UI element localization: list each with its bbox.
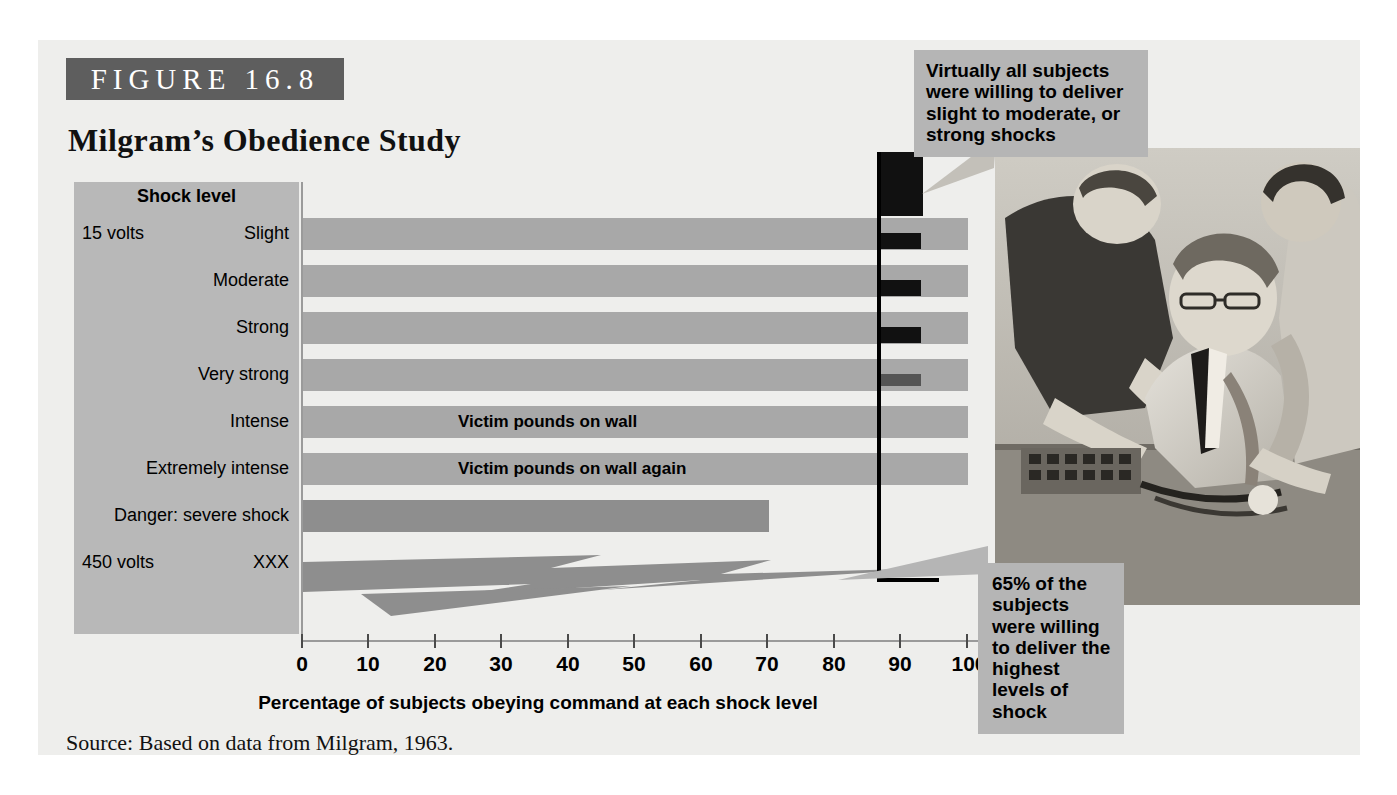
- category-label: Intense: [230, 405, 289, 437]
- bracket-segment: [881, 374, 921, 386]
- label-row-xxx: 450 volts XXX: [74, 546, 299, 578]
- x-tick-label: 0: [296, 652, 308, 676]
- figure-panel: FIGURE 16.8 Milgram’s Obedience Study Sh…: [38, 40, 1360, 755]
- label-row-very-strong: Very strong: [74, 358, 299, 390]
- figure-title: Milgram’s Obedience Study: [68, 122, 461, 159]
- figure-number-badge: FIGURE 16.8: [66, 58, 344, 100]
- figure-number-text: FIGURE 16.8: [66, 58, 344, 100]
- bracket-segment: [881, 233, 921, 249]
- category-label: Very strong: [198, 358, 289, 390]
- x-tick-label: 80: [822, 652, 845, 676]
- callout-top: Virtually all subjects were willing to d…: [914, 50, 1148, 157]
- callout-pointer-bottom: [838, 540, 988, 590]
- volt-label-low: 15 volts: [82, 217, 144, 249]
- x-tick-20: [434, 634, 436, 648]
- x-axis-line: [301, 640, 1011, 642]
- callout-bottom: 65% of the subjects were willing to deli…: [978, 563, 1124, 734]
- shock-level-header: Shock level: [74, 186, 299, 207]
- x-tick-label: 30: [489, 652, 512, 676]
- category-label: Extremely intense: [146, 452, 289, 484]
- x-tick-0: [301, 634, 303, 648]
- bracket-segment: [881, 280, 921, 296]
- label-row-extremely-intense: Extremely intense: [74, 452, 299, 484]
- category-label: Slight: [244, 217, 289, 249]
- label-row-strong: Strong: [74, 311, 299, 343]
- x-tick-label: 10: [356, 652, 379, 676]
- x-tick-80: [833, 634, 835, 648]
- label-row-intense: Intense: [74, 405, 299, 437]
- milgram-experiment-photo: [995, 148, 1360, 605]
- shock-level-label-panel: Shock level 15 volts Slight Moderate Str…: [74, 182, 299, 634]
- x-tick-40: [567, 634, 569, 648]
- x-tick-label: 40: [556, 652, 579, 676]
- x-tick-90: [899, 634, 901, 648]
- x-tick-100: [966, 634, 968, 648]
- category-label: Danger: severe shock: [114, 499, 289, 531]
- photo-illustration: [995, 148, 1360, 605]
- bar-annotation-extremely-intense: Victim pounds on wall again: [458, 453, 686, 485]
- x-tick-label: 50: [622, 652, 645, 676]
- x-tick-50: [633, 634, 635, 648]
- label-row-danger: Danger: severe shock: [74, 499, 299, 531]
- x-axis-title: Percentage of subjects obeying command a…: [38, 692, 1038, 714]
- x-tick-60: [700, 634, 702, 648]
- bar-moderate: [303, 265, 968, 297]
- bar-danger-severe-shock: [303, 500, 769, 532]
- bar-slight: [303, 218, 968, 250]
- bar-very-strong: [303, 359, 968, 391]
- category-label: Moderate: [213, 264, 289, 296]
- category-label: Strong: [236, 311, 289, 343]
- x-tick-30: [500, 634, 502, 648]
- bar-strong: [303, 312, 968, 344]
- x-tick-label: 60: [689, 652, 712, 676]
- label-row-moderate: Moderate: [74, 264, 299, 296]
- bracket-segment: [881, 327, 921, 343]
- x-tick-10: [367, 634, 369, 648]
- bracket-vertical-rule: [877, 152, 881, 582]
- label-row-slight: 15 volts Slight: [74, 217, 299, 249]
- x-tick-label: 20: [423, 652, 446, 676]
- x-tick-label: 90: [888, 652, 911, 676]
- volt-label-high: 450 volts: [82, 546, 154, 578]
- category-label: XXX: [253, 546, 289, 578]
- x-tick-70: [766, 634, 768, 648]
- bar-annotation-intense: Victim pounds on wall: [458, 406, 637, 438]
- source-caption: Source: Based on data from Milgram, 1963…: [66, 730, 453, 756]
- x-tick-label: 70: [755, 652, 778, 676]
